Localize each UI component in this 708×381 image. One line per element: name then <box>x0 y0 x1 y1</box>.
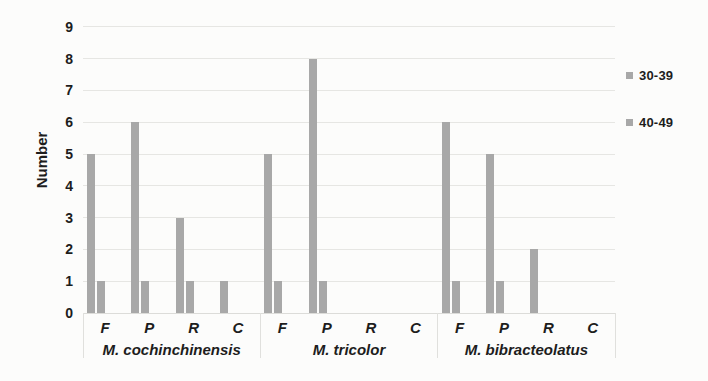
gridline <box>83 26 615 27</box>
bar-30-39 <box>442 122 450 313</box>
species-label: M. bibracteolatus <box>438 342 615 358</box>
bar-30-39 <box>176 218 184 313</box>
gridline <box>83 154 615 155</box>
bar-30-39 <box>486 154 494 313</box>
category-label: R <box>179 320 209 336</box>
plot-area: 0123456789FPRCM. cochinchinensisFPRCM. t… <box>0 0 708 381</box>
category-label: C <box>578 320 608 336</box>
category-label: C <box>223 320 253 336</box>
category-label: C <box>400 320 430 336</box>
bar-40-49 <box>452 281 460 313</box>
category-label: P <box>312 320 342 336</box>
category-label: F <box>90 320 120 336</box>
legend-swatch-30-39 <box>626 72 633 79</box>
bar-30-39 <box>131 122 139 313</box>
bar-30-39 <box>220 281 228 313</box>
bar-30-39 <box>87 154 95 313</box>
category-label: F <box>445 320 475 336</box>
y-tick-label: 7 <box>33 82 73 98</box>
gridline <box>83 185 615 186</box>
bar-40-49 <box>319 281 327 313</box>
legend-label: 40-49 <box>639 115 673 130</box>
legend-item-30-39: 30-39 <box>626 67 673 83</box>
bar-40-49 <box>97 281 105 313</box>
y-tick-label: 6 <box>33 114 73 130</box>
legend-label: 30-39 <box>639 68 673 83</box>
bar-30-39 <box>309 59 317 313</box>
species-label: M. cochinchinensis <box>83 342 260 358</box>
bar-40-49 <box>496 281 504 313</box>
category-label: F <box>267 320 297 336</box>
bar-chart-figure: Number 0123456789FPRCM. cochinchinensisF… <box>0 0 708 381</box>
legend-swatch-40-49 <box>626 119 633 126</box>
gridline <box>83 217 615 218</box>
category-label: P <box>489 320 519 336</box>
gridline <box>83 90 615 91</box>
y-tick-label: 5 <box>33 146 73 162</box>
category-label: R <box>533 320 563 336</box>
y-tick-label: 4 <box>33 178 73 194</box>
y-tick-label: 0 <box>33 305 73 321</box>
gridline <box>83 58 615 59</box>
y-tick-label: 2 <box>33 241 73 257</box>
bar-30-39 <box>264 154 272 313</box>
bar-40-49 <box>186 281 194 313</box>
legend: 30-39 40-49 <box>626 67 673 161</box>
species-label: M. tricolor <box>260 342 437 358</box>
category-label: P <box>134 320 164 336</box>
bar-30-39 <box>530 249 538 313</box>
category-label: R <box>356 320 386 336</box>
gridline <box>83 122 615 123</box>
bar-40-49 <box>274 281 282 313</box>
legend-item-40-49: 40-49 <box>626 114 673 130</box>
y-tick-label: 9 <box>33 19 73 35</box>
bar-40-49 <box>141 281 149 313</box>
y-tick-label: 1 <box>33 273 73 289</box>
y-tick-label: 3 <box>33 210 73 226</box>
y-tick-label: 8 <box>33 51 73 67</box>
